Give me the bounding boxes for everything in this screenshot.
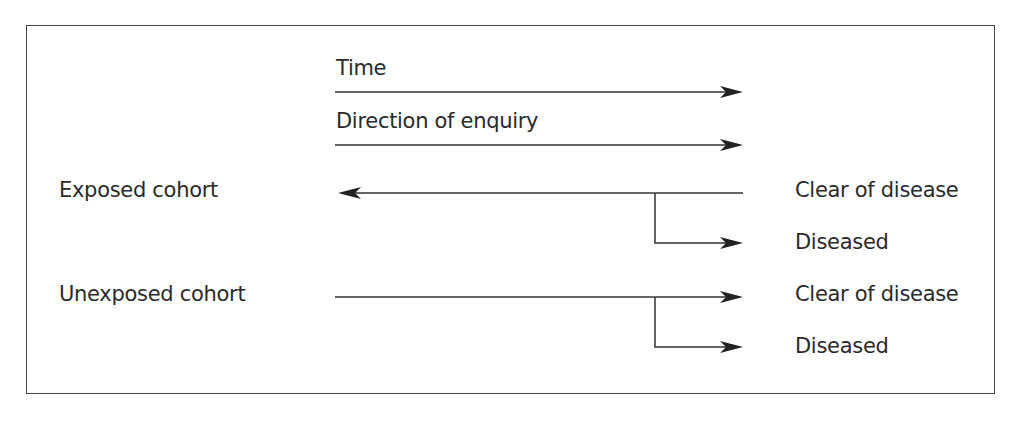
arrows-layer — [0, 0, 1036, 422]
unexposed-branch — [655, 297, 730, 347]
exposed-branch — [655, 193, 730, 243]
